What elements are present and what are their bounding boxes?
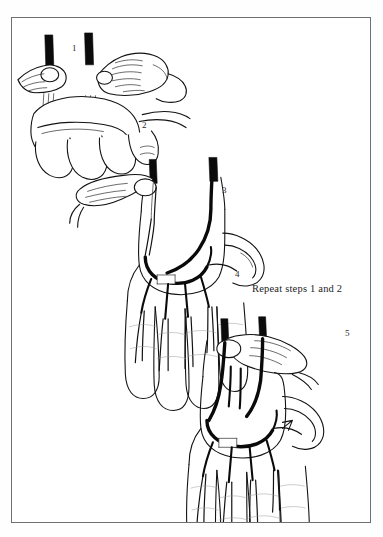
step-label-4: 4 bbox=[235, 270, 240, 279]
step-label-5: 5 bbox=[345, 329, 350, 338]
page-header bbox=[6, 0, 176, 9]
repeat-steps-note: Repeat steps 1 and 2 bbox=[252, 284, 342, 295]
step-label-3: 3 bbox=[222, 186, 227, 195]
step-label-2: 2 bbox=[142, 121, 147, 130]
step-label-1: 1 bbox=[72, 44, 77, 53]
anatomical-illustration: .ln { fill:none; stroke:#131313; stroke-… bbox=[12, 18, 370, 522]
figure-frame: .ln { fill:none; stroke:#131313; stroke-… bbox=[11, 17, 371, 523]
